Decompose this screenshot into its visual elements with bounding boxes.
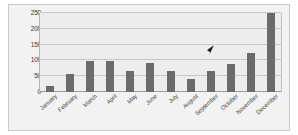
bar bbox=[187, 79, 195, 92]
bar bbox=[106, 61, 114, 92]
x-axis-tick-labels: JanuaryFebruaryMarchAprilMayJuneJulyAugu… bbox=[39, 93, 282, 135]
bar bbox=[227, 64, 235, 92]
x-axis-tick-label: June bbox=[145, 93, 158, 106]
bar bbox=[126, 71, 134, 92]
bar bbox=[247, 53, 255, 93]
chart-frame: 050100150200250 JanuaryFebruaryMarchApri… bbox=[8, 4, 290, 131]
x-axis-tick-label: August bbox=[181, 93, 198, 110]
x-axis-tick-label: April bbox=[106, 93, 119, 105]
x-axis-tick-label: May bbox=[126, 93, 138, 105]
bar bbox=[86, 61, 94, 92]
x-axis-tick-label: March bbox=[82, 93, 98, 108]
bar bbox=[66, 74, 74, 92]
bar bbox=[46, 86, 54, 92]
bar bbox=[267, 13, 275, 92]
plot-area bbox=[39, 13, 282, 92]
bar bbox=[207, 71, 215, 92]
bar-series bbox=[40, 13, 281, 92]
y-axis-tick-labels: 050100150200250 bbox=[17, 5, 41, 92]
x-axis-tick-label: January bbox=[39, 93, 58, 111]
bar bbox=[167, 71, 175, 92]
bar bbox=[146, 63, 154, 92]
x-axis-tick-label: February bbox=[57, 93, 78, 113]
x-axis-tick-label: July bbox=[167, 93, 179, 104]
